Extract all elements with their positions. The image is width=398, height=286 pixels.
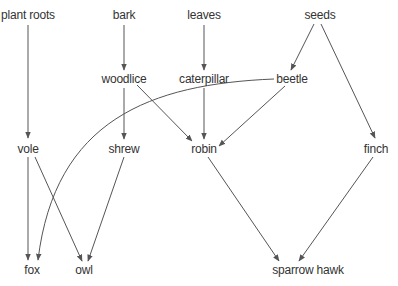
node-robin: robin bbox=[191, 142, 217, 156]
edge-seeds-beetle bbox=[291, 24, 314, 70]
food-web-diagram: plant roots bark leaves seeds woodlice c… bbox=[0, 0, 398, 286]
edge-beetle-fox bbox=[38, 79, 274, 260]
node-fox: fox bbox=[24, 263, 39, 277]
edge-robin-sparrow-hawk bbox=[208, 157, 279, 261]
node-plant-roots: plant roots bbox=[1, 8, 55, 22]
node-seeds: seeds bbox=[304, 8, 335, 22]
node-leaves: leaves bbox=[187, 8, 221, 22]
node-bark: bark bbox=[113, 8, 136, 22]
edge-shrew-owl bbox=[88, 157, 124, 261]
node-caterpillar: caterpillar bbox=[179, 72, 229, 86]
edge-woodlice-robin bbox=[137, 85, 192, 141]
edge-beetle-robin bbox=[219, 86, 285, 146]
node-finch: finch bbox=[364, 142, 388, 156]
edge-vole-owl bbox=[35, 157, 82, 261]
node-beetle: beetle bbox=[276, 72, 308, 86]
node-vole: vole bbox=[17, 142, 38, 156]
node-owl: owl bbox=[75, 263, 92, 277]
edge-seeds-finch bbox=[321, 24, 375, 138]
node-woodlice: woodlice bbox=[101, 72, 146, 86]
edge-finch-sparrow-hawk bbox=[299, 157, 373, 261]
node-sparrow-hawk: sparrow hawk bbox=[272, 263, 344, 277]
node-shrew: shrew bbox=[108, 142, 139, 156]
